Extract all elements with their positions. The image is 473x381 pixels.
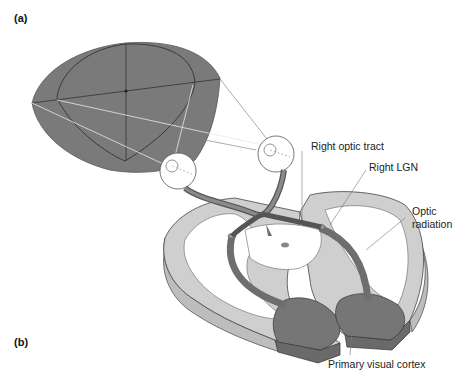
label-right-lgn: Right LGN [369,161,418,173]
label-primary-visual-cortex: Primary visual cortex [328,358,425,370]
right-eye [258,136,294,172]
visual-field [32,42,272,172]
label-optic-radiation-2: radiation [412,218,452,230]
label-right-optic-tract: Right optic tract [311,140,384,152]
brain-slice [164,192,428,363]
label-optic-radiation-1: Optic [412,205,437,217]
visual-pathway-diagram [0,0,473,381]
left-eye [160,153,196,189]
